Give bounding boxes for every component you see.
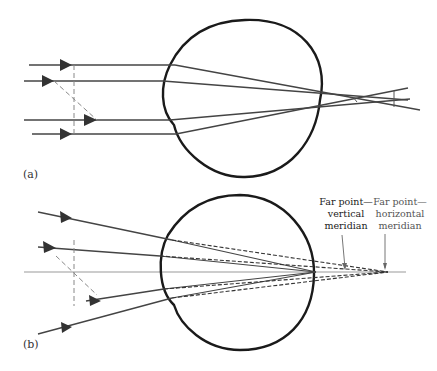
- arrow-icon: [84, 114, 97, 126]
- arrow-icon: [60, 211, 72, 223]
- arrow-icon: [60, 59, 72, 71]
- arrow-icon: [43, 241, 56, 253]
- diagram-canvas: [0, 0, 437, 371]
- far-point-horizontal-label: Far point— horizontal meridian: [366, 196, 434, 232]
- arrow-icon: [61, 322, 72, 333]
- arrow-icon: [89, 295, 101, 306]
- panel-label-b: (b): [23, 338, 39, 351]
- annot-line: meridian: [366, 220, 434, 232]
- panel-a-diagram: [24, 20, 420, 177]
- eye-outline-a: [163, 20, 322, 177]
- arrow-icon: [42, 75, 54, 87]
- arrow-icon: [60, 128, 72, 140]
- panel-label-a: (a): [23, 168, 38, 181]
- annot-line: horizontal: [366, 208, 434, 220]
- annot-line: Far point—: [366, 196, 434, 208]
